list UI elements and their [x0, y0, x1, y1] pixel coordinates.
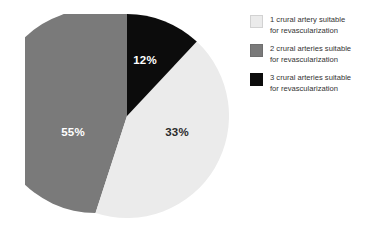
pie-svg: 12% 33% 55% [25, 14, 229, 218]
pie-chart-figure: 12% 33% 55% 1 crural artery suitable for… [0, 0, 371, 225]
legend-item-label: 2 crural arteries suitable for revascula… [270, 43, 351, 65]
legend-item-2-crural-arteries[interactable]: 2 crural arteries suitable for revascula… [250, 43, 368, 65]
pie-label-33-percent: 33% [165, 126, 189, 138]
pie-label-12-percent: 12% [133, 54, 157, 66]
legend-item-1-crural-artery[interactable]: 1 crural artery suitable for revasculari… [250, 14, 368, 36]
legend-item-3-crural-arteries[interactable]: 3 crural arteries suitable for revascula… [250, 72, 368, 94]
medium-gray-swatch-icon [250, 44, 263, 57]
legend-item-label: 1 crural artery suitable for revasculari… [270, 14, 345, 36]
light-gray-swatch-icon [250, 15, 263, 28]
chart-legend: 1 crural artery suitable for revasculari… [250, 14, 368, 101]
pie-label-55-percent: 55% [61, 126, 85, 138]
legend-item-label: 3 crural arteries suitable for revascula… [270, 72, 351, 94]
pie-chart-graphic: 12% 33% 55% [25, 14, 229, 218]
black-swatch-icon [250, 73, 263, 86]
